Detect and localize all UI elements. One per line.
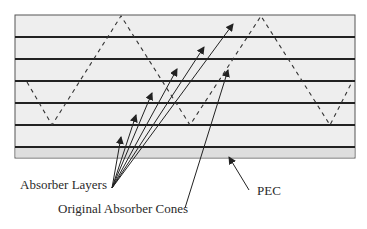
pec-label: PEC (257, 183, 281, 199)
absorber-layers-label: Absorber Layers (20, 177, 107, 193)
diagram-canvas (0, 0, 367, 229)
original-absorber-cones-label: Original Absorber Cones (58, 201, 188, 217)
pec-arrow (229, 157, 249, 190)
pec-region (16, 147, 355, 158)
